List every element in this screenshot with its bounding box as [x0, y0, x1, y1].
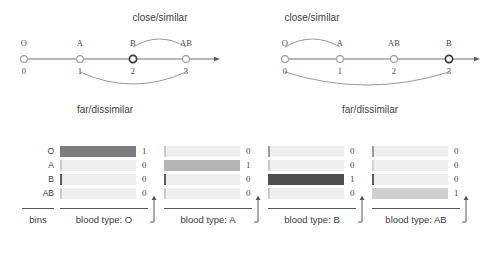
numberline-tick-marker	[445, 55, 452, 62]
heat-row-group: 0010	[268, 146, 344, 202]
heat-cell-edge-marker	[372, 160, 374, 171]
heat-cell	[372, 160, 448, 171]
arc-close-similar	[285, 39, 340, 47]
heat-row-group: 0001	[372, 146, 448, 202]
numberline-tick-name: A	[77, 38, 83, 48]
heat-row-group: 0100	[164, 146, 240, 202]
arc-label-close-similar: close/similar	[132, 12, 187, 23]
numberline-tick-number: 2	[131, 66, 135, 76]
arc-label-far-dissimilar: far/dissimilar	[77, 104, 133, 115]
arc-close-similar	[133, 39, 186, 47]
numberline-tick-number: 2	[392, 66, 396, 76]
numberline-left: O0A1B2AB3close/similarfar/dissimilar	[0, 0, 246, 130]
numberline-tick-number: 3	[184, 66, 188, 76]
heat-cell-value: 0	[454, 160, 459, 171]
numberline-tick-name: AB	[388, 38, 400, 48]
heat-cell	[268, 146, 344, 157]
heat-cell-edge-marker	[60, 188, 62, 199]
heat-row: 1	[372, 188, 448, 199]
heat-row: 0	[164, 188, 240, 199]
heat-row: 0	[268, 188, 344, 199]
numberline-tick-marker	[77, 56, 84, 63]
heat-cell	[164, 146, 240, 157]
heat-row: 0	[60, 160, 136, 171]
heat-cell-edge-marker	[164, 146, 166, 157]
heat-cell	[372, 146, 448, 157]
heat-cell-value: 0	[454, 174, 459, 185]
heat-cell-value: 0	[350, 146, 355, 157]
bin-row-label: A	[22, 160, 54, 171]
numberline-tick-number: 1	[338, 66, 342, 76]
heat-cell	[60, 146, 136, 157]
axis-arrowhead	[214, 57, 220, 61]
heat-cell	[268, 160, 344, 171]
heat-row: 1	[164, 160, 240, 171]
numberline-tick-name: O	[282, 38, 288, 48]
panel-caption-pointer-icon	[446, 190, 468, 226]
heat-row: 1	[60, 146, 136, 157]
heat-row: 0	[372, 146, 448, 157]
heat-panel-blood-type-ab: 0001blood type: AB	[372, 146, 480, 250]
bin-row-label: B	[22, 174, 54, 185]
heat-cell-edge-marker	[268, 188, 270, 199]
numberline-tick-number: 0	[283, 66, 287, 76]
heat-cell-value: 0	[246, 174, 251, 185]
heat-cell-value: 0	[142, 160, 147, 171]
heat-cell-edge-marker	[164, 174, 166, 185]
heat-cell	[164, 188, 240, 199]
numberline-tick-marker	[337, 56, 344, 63]
numberline-tick-marker	[129, 55, 136, 62]
heat-cell	[60, 174, 136, 185]
heat-cell	[164, 174, 240, 185]
heat-row: 0	[164, 174, 240, 185]
heatmap-section: OABAB bins 1000blood type: O 0100blood t…	[0, 130, 492, 254]
numberline-tick-name: A	[337, 38, 343, 48]
heat-cell-value: 1	[246, 160, 251, 171]
heat-row: 0	[372, 160, 448, 171]
panel-caption-pointer-icon	[342, 190, 364, 226]
heat-cell-value: 0	[246, 146, 251, 157]
heat-cell-edge-marker	[60, 160, 62, 171]
heat-row: 0	[268, 160, 344, 171]
bins-axis-rule	[22, 208, 54, 209]
bin-row-label: AB	[22, 188, 54, 199]
numberline-tick-number: 1	[78, 66, 82, 76]
heat-panel-blood-type-b: 0010blood type: B	[268, 146, 376, 250]
heat-cell-edge-marker	[164, 188, 166, 199]
heat-cell	[268, 188, 344, 199]
heat-cell	[268, 174, 344, 185]
heat-row: 0	[60, 188, 136, 199]
numberline-tick-name: B	[446, 38, 452, 48]
numberline-tick-name: B	[130, 38, 136, 48]
heat-cell-value: 1	[350, 174, 355, 185]
arc-far-dissimilar	[285, 72, 449, 85]
heat-cell-edge-marker	[372, 174, 374, 185]
numberline-tick-marker	[391, 56, 398, 63]
heat-cell	[372, 188, 448, 199]
numberline-tick-number: 3	[447, 66, 451, 76]
bins-caption: bins	[22, 214, 54, 225]
numberline-tick-marker	[183, 56, 190, 63]
heat-cell	[60, 188, 136, 199]
figure-canvas: O0A1B2AB3close/similarfar/dissimilar O0A…	[0, 0, 492, 254]
heat-cell-edge-marker	[60, 174, 62, 185]
heat-row: 0	[372, 174, 448, 185]
panel-caption-pointer-icon	[238, 190, 260, 226]
heat-row: 0	[268, 146, 344, 157]
heat-cell-value: 0	[454, 146, 459, 157]
heat-row: 0	[60, 174, 136, 185]
numberline-tick-name: O	[21, 38, 27, 48]
panel-caption-pointer-icon	[134, 190, 156, 226]
heat-cell-value: 0	[142, 174, 147, 185]
heat-row: 1	[268, 174, 344, 185]
numberline-tick-number: 0	[22, 66, 26, 76]
arc-label-close-similar: close/similar	[284, 12, 339, 23]
heat-cell	[164, 160, 240, 171]
heat-cell	[372, 174, 448, 185]
heat-cell-value: 1	[142, 146, 147, 157]
bins-label-column: OABAB	[22, 146, 54, 202]
axis-arrowhead	[474, 57, 480, 61]
heat-cell	[60, 160, 136, 171]
numberline-tick-marker	[282, 56, 289, 63]
heat-cell-edge-marker	[372, 146, 374, 157]
